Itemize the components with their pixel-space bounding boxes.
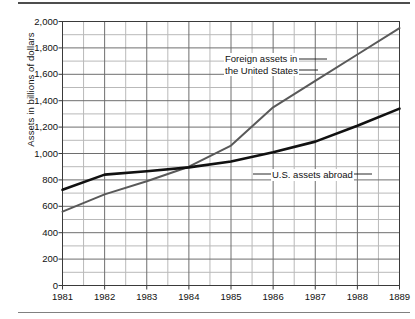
series-label-us-line1: U.S. assets abroad <box>272 169 353 181</box>
series-label-foreign-assets: Foreign assets in the United States <box>224 53 299 76</box>
series-label-us-assets: U.S. assets abroad <box>271 169 354 181</box>
series-label-foreign-line2: the United States <box>225 65 298 77</box>
series-label-foreign-line1: Foreign assets in <box>225 53 298 65</box>
